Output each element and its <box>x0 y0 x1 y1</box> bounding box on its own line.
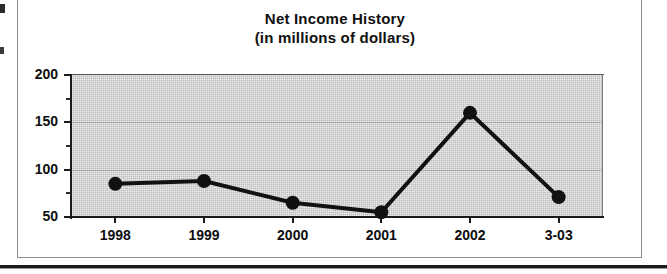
y-axis-tick <box>64 121 71 123</box>
x-axis-tick <box>203 218 205 223</box>
plot-right-border <box>602 74 603 218</box>
y-axis-label: 150 <box>12 113 58 129</box>
x-axis-tick <box>292 218 294 223</box>
y-axis-tick <box>64 169 71 171</box>
x-axis-label: 1999 <box>159 227 249 243</box>
y-axis-label: 200 <box>12 66 58 82</box>
y-axis-tick <box>64 74 71 76</box>
page-divider-rule-soft <box>0 268 667 269</box>
gridline <box>71 122 603 123</box>
x-axis-label: 2001 <box>336 227 426 243</box>
y-axis-minor-tick <box>66 98 71 100</box>
chart-title-line-1: Net Income History <box>120 9 550 28</box>
x-axis-tick <box>558 218 560 223</box>
x-axis-label: 2000 <box>248 227 338 243</box>
scan-artifact-mid-left <box>0 47 4 54</box>
x-axis-tick <box>380 218 382 223</box>
x-axis-tick <box>469 218 471 223</box>
y-axis-label: 100 <box>12 161 58 177</box>
plot-area <box>71 75 603 217</box>
y-axis-minor-tick <box>66 192 71 194</box>
y-axis-tick <box>64 216 71 218</box>
x-axis-label: 3-03 <box>514 227 604 243</box>
y-axis-minor-tick <box>66 145 71 147</box>
chart-title: Net Income History (in millions of dolla… <box>120 9 550 47</box>
chart-title-line-2: (in millions of dollars) <box>120 28 550 47</box>
x-axis-tick <box>114 218 116 223</box>
y-axis-label: 50 <box>12 208 58 224</box>
gridline <box>71 170 603 171</box>
x-axis-line <box>70 216 604 218</box>
scan-artifact-top-left <box>0 4 5 13</box>
x-axis-label: 2002 <box>425 227 515 243</box>
plot-top-border <box>70 74 604 75</box>
x-axis-label: 1998 <box>70 227 160 243</box>
